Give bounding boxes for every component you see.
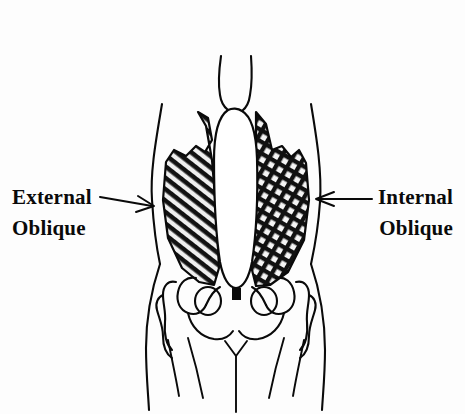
groin-line: [225, 341, 247, 412]
label-external-oblique: External Oblique: [12, 182, 92, 244]
label-internal-oblique: Internal Oblique: [378, 182, 453, 244]
rectus-abdominis-sheath: [214, 109, 257, 288]
arrow-external-oblique: [100, 196, 154, 212]
label-internal-oblique-line2: Oblique: [378, 213, 453, 244]
arrow-internal-oblique: [316, 192, 372, 206]
label-external-oblique-line2: Oblique: [12, 213, 92, 244]
label-internal-oblique-line1: Internal: [378, 182, 453, 213]
label-external-oblique-line1: External: [12, 182, 92, 213]
sternum-xiphoid: [219, 56, 252, 111]
pelvis: [156, 278, 315, 358]
anatomy-figure: External Oblique Internal Oblique: [0, 0, 465, 414]
